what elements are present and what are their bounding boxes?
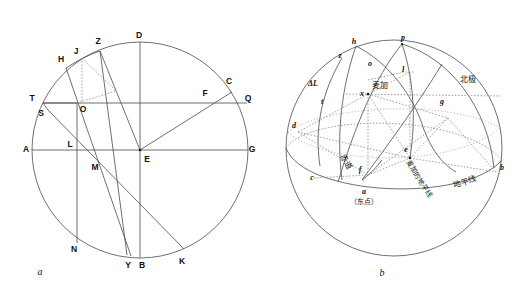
circle-z-t	[318, 58, 342, 166]
diagram-b-container: p h z o l x t d c f a e g b ΔL 麦加 北极 赤道 …	[264, 0, 528, 291]
label-a: a	[362, 187, 366, 196]
line-ZE	[100, 51, 140, 150]
label-d: d	[292, 121, 297, 130]
annotation-north-pole: 北极	[460, 74, 476, 84]
diagram-a-svg: A G D B Y K N M L E O T S H J Z C F Q a	[0, 0, 264, 291]
dotted-f-e	[368, 158, 410, 175]
label-g: g	[439, 97, 444, 106]
annotation-horizon: 地平线	[452, 173, 478, 190]
label-C: C	[226, 76, 232, 86]
label-x: x	[359, 89, 364, 98]
equator-front	[288, 128, 500, 158]
label-L: L	[67, 139, 72, 149]
diagram-a-container: A G D B Y K N M L E O T S H J Z C F Q a	[0, 0, 264, 291]
figure-page: A G D B Y K N M L E O T S H J Z C F Q a	[0, 0, 528, 291]
meridian-p-b	[402, 44, 494, 168]
dotted-d-f	[298, 132, 368, 175]
annotation-east-point: （东点）	[350, 197, 378, 206]
point-E-dot	[139, 149, 142, 152]
mecca-horizon-lower	[362, 160, 382, 180]
point-p-dot	[401, 43, 403, 45]
label-e: e	[404, 145, 408, 154]
annotation-mecca: 麦加	[372, 80, 388, 90]
label-o: o	[368, 59, 372, 68]
label-A: A	[23, 144, 29, 154]
label-E: E	[144, 154, 150, 164]
dotted-x-g	[368, 94, 448, 118]
dotted-J-to-slant	[82, 58, 116, 91]
line-SEK	[48, 110, 184, 249]
point-x-dot	[367, 93, 369, 95]
label-M: M	[91, 162, 98, 172]
label-f: f	[359, 165, 363, 174]
label-l: l	[402, 65, 405, 74]
label-B: B	[139, 260, 145, 270]
label-F: F	[202, 88, 207, 98]
line-ZY	[100, 51, 127, 255]
label-O: O	[80, 104, 87, 114]
dotted-g-b	[448, 118, 496, 172]
label-S: S	[38, 108, 44, 118]
label-Z: Z	[95, 36, 100, 46]
label-Y: Y	[125, 260, 131, 270]
label-h: h	[352, 37, 357, 46]
label-D: D	[136, 30, 142, 40]
label-H: H	[58, 54, 64, 64]
dotted-O-slant	[77, 91, 116, 103]
diagram-b-svg: p h z o l x t d c f a e g b ΔL 麦加 北极 赤道 …	[264, 0, 528, 291]
arc-HZ	[66, 51, 100, 68]
label-K: K	[179, 256, 186, 266]
label-Q: Q	[245, 93, 252, 103]
caption-b: b	[380, 267, 385, 278]
line-EC	[140, 92, 232, 150]
caption-a: a	[38, 266, 43, 277]
label-b: b	[500, 163, 504, 172]
label-N: N	[71, 244, 77, 254]
label-c: c	[310, 173, 314, 182]
annotation-mecca-horizon: 麦加的地平线	[404, 158, 434, 198]
label-G: G	[249, 144, 256, 154]
label-p: p	[400, 33, 405, 42]
label-T: T	[29, 93, 35, 103]
dotted-e-g	[410, 118, 448, 158]
label-delta-l: ΔL	[307, 79, 318, 88]
label-J: J	[74, 46, 79, 56]
